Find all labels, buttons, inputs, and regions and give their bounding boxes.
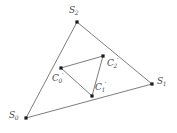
vertex-marker-S1 [150, 82, 153, 85]
inner-edge-C1p-C0p [61, 68, 92, 96]
outer-edge-S0-S2 [26, 22, 77, 118]
outer-edge-S1-S0 [26, 84, 152, 118]
vertex-markers [24, 20, 153, 119]
vertex-marker-S0 [24, 116, 27, 119]
diagram-canvas [0, 0, 177, 133]
vertex-label-S1: S1 [157, 77, 167, 86]
vertex-marker-C1p [90, 94, 93, 97]
vertex-label-S2: S2 [69, 6, 79, 15]
label-subscript-S0: 0 [15, 114, 19, 121]
label-subscript-S1: 1 [163, 80, 167, 87]
outer-edge-S2-S1 [77, 22, 152, 84]
inner-edge-C0p-C2p [61, 56, 103, 68]
vertex-label-C1p: C1′ [95, 83, 107, 92]
label-prime-C1p: ′ [105, 81, 107, 89]
vertex-marker-C0p [59, 66, 62, 69]
vertex-label-S0: S0 [9, 111, 19, 120]
label-subscript-S2: 2 [75, 9, 79, 16]
vertex-marker-C2p [101, 54, 104, 57]
geometry-figure: S0S1S2C0′C1′C2′ [0, 0, 177, 133]
label-prime-C2p: ′ [117, 57, 119, 65]
vertex-marker-S2 [75, 20, 78, 23]
vertex-label-C0p: C0′ [52, 74, 64, 83]
vertex-label-C2p: C2′ [107, 59, 119, 68]
label-prime-C0p: ′ [62, 72, 64, 80]
outer-triangle-edges [26, 22, 152, 118]
